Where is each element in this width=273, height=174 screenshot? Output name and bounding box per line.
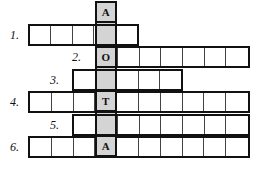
answer-cell[interactable] [140, 116, 162, 134]
answer-cell[interactable] [139, 93, 161, 111]
answer-cell[interactable] [205, 116, 227, 134]
answer-cell[interactable] [30, 93, 52, 111]
answer-cell-keyword[interactable] [96, 71, 117, 89]
keyword-letter-cell: T [95, 90, 117, 112]
answer-cell[interactable] [139, 138, 161, 156]
answer-cell[interactable] [140, 48, 162, 66]
answer-cell[interactable] [183, 138, 205, 156]
answer-cell[interactable] [183, 48, 205, 66]
answer-cell[interactable] [226, 93, 248, 111]
answer-cell[interactable] [161, 138, 183, 156]
answer-cell[interactable] [117, 138, 139, 156]
answer-cell[interactable] [117, 71, 138, 89]
answer-cell[interactable] [52, 138, 74, 156]
row-number-label: 3. [50, 74, 59, 86]
keyword-letter-cell: A [95, 1, 117, 23]
keyword-letter: A [97, 140, 115, 151]
answer-cell[interactable] [74, 71, 95, 89]
answer-cell[interactable] [160, 71, 181, 89]
answer-cell[interactable] [118, 48, 140, 66]
answer-row [28, 91, 250, 113]
answer-cell[interactable] [74, 138, 96, 156]
answer-row [28, 24, 139, 46]
answer-cell[interactable] [52, 93, 74, 111]
keyword-letter: A [97, 7, 115, 18]
answer-cell[interactable] [139, 71, 160, 89]
answer-cell[interactable] [161, 93, 183, 111]
answer-cell[interactable] [118, 116, 140, 134]
answer-cell[interactable] [30, 26, 51, 44]
keyword-letter: O [97, 51, 115, 62]
answer-cell[interactable] [161, 48, 183, 66]
row-number-label: 4. [10, 96, 19, 108]
answer-cell[interactable] [204, 138, 226, 156]
answer-cell[interactable] [205, 48, 227, 66]
answer-cell[interactable] [73, 26, 94, 44]
answer-cell-keyword[interactable] [96, 116, 118, 134]
answer-cell[interactable] [226, 48, 248, 66]
answer-cell[interactable] [116, 26, 137, 44]
answer-cell[interactable] [183, 93, 205, 111]
answer-cell[interactable] [74, 93, 96, 111]
answer-cell[interactable] [226, 116, 248, 134]
answer-row [72, 114, 250, 136]
answer-cell[interactable] [204, 93, 226, 111]
answer-cell[interactable] [30, 138, 52, 156]
answer-cell-keyword[interactable] [94, 26, 115, 44]
answer-cell[interactable] [226, 138, 248, 156]
keyword-letter: T [97, 96, 115, 107]
answer-cell[interactable] [74, 116, 96, 134]
row-number-label: 6. [10, 141, 19, 153]
answer-cell[interactable] [117, 93, 139, 111]
crossword-puzzle: AOTA 1.2.3.4.5.6. [0, 0, 273, 174]
keyword-letter-cell: A [95, 135, 117, 157]
row-number-label: 2. [72, 51, 81, 63]
row-number-label: 1. [10, 29, 19, 41]
answer-cell[interactable] [183, 116, 205, 134]
answer-row [95, 46, 250, 68]
keyword-letter-cell: O [95, 46, 117, 68]
answer-row [72, 69, 183, 91]
answer-row [28, 136, 250, 158]
answer-cell[interactable] [161, 116, 183, 134]
row-number-label: 5. [50, 119, 59, 131]
answer-cell[interactable] [51, 26, 72, 44]
